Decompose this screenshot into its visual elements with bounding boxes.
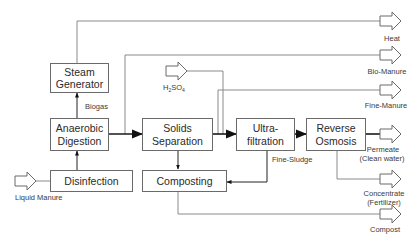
compost-line	[178, 191, 380, 214]
process-flow-diagram: Steam Generator Anaerobic Digestion Disi…	[0, 0, 417, 244]
h2so4-label: H2SO4	[163, 83, 185, 93]
svg-text:Osmosis: Osmosis	[316, 135, 357, 147]
heat-label: Heat	[384, 34, 401, 43]
svg-text:filtration: filtration	[247, 135, 284, 147]
disinfection-box: Disinfection	[51, 171, 133, 192]
heat-output-arrow-icon	[380, 12, 401, 30]
svg-text:Anaerobic: Anaerobic	[56, 122, 103, 134]
liquid-manure-label: Liquid Manure	[15, 193, 63, 202]
liquid-manure-input-arrow-icon	[15, 172, 36, 190]
compost-label: Compost	[370, 225, 401, 234]
concentrate-sublabel: (Fertilizer)	[367, 198, 401, 207]
svg-text:Disinfection: Disinfection	[64, 175, 118, 187]
svg-text:Composting: Composting	[156, 175, 212, 187]
anaerobic-digestion-box: Anaerobic Digestion	[51, 119, 109, 151]
concentrate-label: Concentrate	[364, 189, 405, 198]
permeate-output-arrow-icon	[380, 125, 401, 143]
h2so4-input-arrow-icon	[166, 62, 187, 80]
bio-manure-output-arrow-icon	[380, 46, 401, 64]
heat-line	[77, 21, 380, 63]
fine-manure-output-arrow-icon	[380, 81, 401, 99]
bio-manure-label: Bio-Manure	[368, 67, 407, 76]
svg-text:Solids: Solids	[163, 122, 192, 134]
svg-text:Separation: Separation	[152, 135, 203, 147]
fine-manure-label: Fine-Manure	[365, 101, 408, 110]
compost-output-arrow-icon	[380, 205, 401, 223]
biogas-label: Biogas	[85, 102, 108, 111]
fine-sludge-label: Fine-Sludge	[272, 155, 312, 164]
ultrafiltration-box: Ultra- filtration	[237, 119, 295, 151]
permeate-sublabel: (Clean water)	[359, 154, 405, 163]
permeate-label: Permeate	[367, 145, 400, 154]
concentrate-output-arrow-icon	[380, 170, 401, 188]
steam-generator-box: Steam Generator	[51, 64, 109, 93]
svg-text:Steam: Steam	[64, 66, 95, 78]
svg-text:Ultra-: Ultra-	[253, 122, 279, 134]
composting-box: Composting	[143, 171, 227, 192]
svg-text:Digestion: Digestion	[58, 135, 102, 147]
fine-sludge-arrow	[227, 150, 267, 182]
svg-text:Reverse: Reverse	[316, 122, 355, 134]
solids-separation-box: Solids Separation	[143, 119, 213, 151]
reverse-osmosis-box: Reverse Osmosis	[307, 119, 366, 151]
svg-text:Generator: Generator	[56, 78, 104, 90]
